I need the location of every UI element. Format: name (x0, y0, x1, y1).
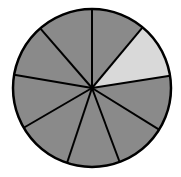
center-point (90, 86, 94, 90)
fraction-circle-diagram (0, 0, 181, 177)
